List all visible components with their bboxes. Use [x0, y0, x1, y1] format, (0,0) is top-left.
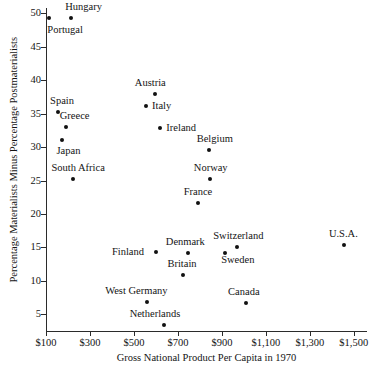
y-tick-mark: [41, 114, 46, 115]
y-tick-label-wrapper: 45: [0, 42, 41, 52]
x-tick-mark: [354, 331, 355, 336]
data-point-label: Italy: [152, 100, 171, 111]
y-tick-label: 20: [19, 209, 41, 219]
y-tick-mark: [41, 147, 46, 148]
y-tick-label: 45: [19, 42, 41, 52]
x-tick-mark: [178, 331, 179, 336]
x-tick-mark: [134, 331, 135, 336]
data-point-label: Hungary: [65, 1, 102, 12]
data-point-label: U.S.A.: [329, 228, 358, 239]
data-point-label: Canada: [228, 286, 260, 297]
x-tick-mark: [222, 331, 223, 336]
y-tick-label: 15: [19, 242, 41, 252]
y-tick-label-wrapper: 50: [0, 8, 41, 18]
y-tick-label: 50: [19, 8, 41, 18]
data-point-label: France: [184, 186, 213, 197]
y-tick-label: 30: [19, 142, 41, 152]
data-point: [181, 273, 185, 277]
y-tick-mark: [41, 281, 46, 282]
data-point: [158, 126, 162, 130]
x-tick-mark: [266, 331, 267, 336]
x-axis-line: [46, 331, 367, 332]
data-point-label: Japan: [56, 145, 80, 156]
y-tick-mark: [41, 13, 46, 14]
y-tick-label: 35: [19, 109, 41, 119]
data-point: [64, 125, 68, 129]
x-axis-title: Gross National Product Per Capita in 197…: [46, 352, 367, 363]
x-tick-mark: [310, 331, 311, 336]
y-tick-label: 10: [19, 276, 41, 286]
data-point: [153, 92, 157, 96]
data-point-label: Britain: [167, 258, 196, 269]
data-point: [47, 16, 51, 20]
y-tick-mark: [41, 80, 46, 81]
y-tick-mark: [41, 47, 46, 48]
data-point-label: Ireland: [166, 122, 196, 133]
y-tick-label: 25: [19, 176, 41, 186]
data-point: [145, 300, 149, 304]
data-point: [235, 245, 239, 249]
data-point: [186, 251, 190, 255]
data-point-label: South Africa: [51, 162, 104, 173]
data-point-label: Austria: [135, 77, 166, 88]
y-tick-mark: [41, 214, 46, 215]
y-tick-label-wrapper: 15: [0, 242, 41, 252]
data-point-label: Sweden: [221, 254, 254, 265]
data-point-label: Portugal: [47, 24, 83, 35]
x-tick-mark: [46, 331, 47, 336]
data-point: [162, 323, 166, 327]
y-tick-label-wrapper: 40: [0, 75, 41, 85]
data-point: [244, 301, 248, 305]
y-tick-mark: [41, 181, 46, 182]
data-point-label: Finland: [112, 246, 144, 257]
data-point: [196, 201, 200, 205]
x-tick-label: $1,500: [324, 337, 374, 348]
y-tick-mark: [41, 314, 46, 315]
y-tick-label: 5: [19, 309, 41, 319]
y-tick-label-wrapper: 30: [0, 142, 41, 152]
data-point: [207, 148, 211, 152]
y-tick-label-wrapper: 5: [0, 309, 41, 319]
data-point-label: Netherlands: [130, 308, 181, 319]
data-point: [60, 138, 64, 142]
y-tick-label-wrapper: 25: [0, 176, 41, 186]
data-point: [144, 104, 148, 108]
y-tick-mark: [41, 247, 46, 248]
data-point: [69, 16, 73, 20]
scatter-plot: Percentage Materialists Minus Percentage…: [0, 0, 374, 365]
y-axis-line: [46, 8, 47, 331]
data-point-label: Spain: [50, 95, 74, 106]
data-point-label: Norway: [194, 162, 228, 173]
y-tick-label-wrapper: 20: [0, 209, 41, 219]
data-point-label: Denmark: [166, 236, 205, 247]
y-tick-label: 40: [19, 75, 41, 85]
data-point: [154, 250, 158, 254]
data-point: [208, 177, 212, 181]
data-point-label: West Germany: [105, 285, 167, 296]
data-point-label: Belgium: [197, 133, 233, 144]
data-point: [342, 243, 346, 247]
y-tick-label-wrapper: 35: [0, 109, 41, 119]
data-point: [71, 177, 75, 181]
data-point-label: Greece: [60, 110, 90, 121]
x-tick-mark: [90, 331, 91, 336]
y-tick-label-wrapper: 10: [0, 276, 41, 286]
data-point-label: Switzerland: [213, 230, 263, 241]
